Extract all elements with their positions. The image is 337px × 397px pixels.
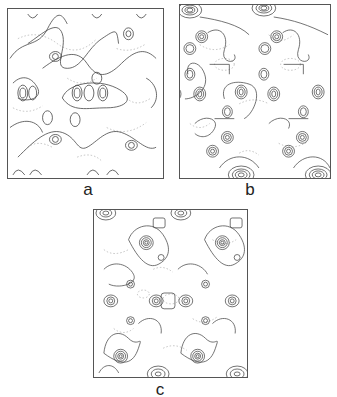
contour-panel-c — [93, 209, 248, 378]
contour-map-a — [8, 9, 163, 178]
panel-label-b: b — [240, 180, 260, 200]
panel-label-a: a — [78, 180, 98, 200]
contour-panel-a — [7, 8, 164, 179]
panel-label-c: c — [150, 380, 170, 397]
contour-map-b — [180, 5, 330, 178]
contour-panel-b — [179, 4, 331, 179]
contour-map-c — [94, 210, 247, 377]
